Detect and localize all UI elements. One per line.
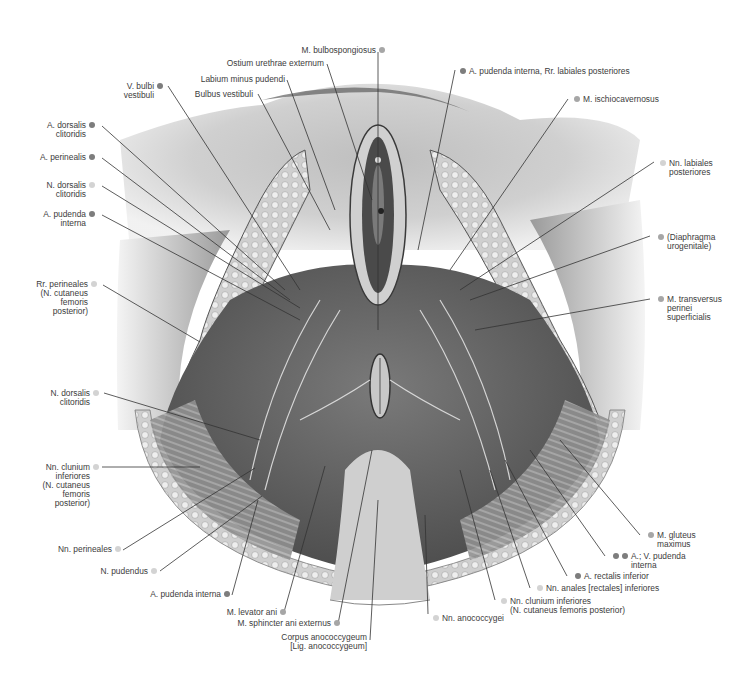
- label-a-pudenda-interna-bottom: A. pudenda interna: [150, 590, 233, 599]
- label-text: A. rectalis inferior: [584, 571, 649, 581]
- label-text: Bulbus vestibuli: [195, 89, 253, 99]
- nerve-dot-icon: [501, 598, 507, 604]
- label-nn-perineales: Nn. perineales: [58, 545, 124, 554]
- label-text: M. levator ani: [227, 607, 277, 617]
- label-text: A. pudenda interna: [150, 589, 221, 599]
- nerve-dot-icon: [115, 546, 121, 552]
- label-text: posterior): [43, 499, 102, 508]
- muscle-dot-icon: [658, 234, 664, 240]
- label-ostium-urethrae: Ostium urethrae externum: [227, 59, 324, 68]
- label-m-transversus-perinei: M. transversus perinei superficialis: [655, 295, 722, 322]
- muscle-dot-icon: [280, 609, 286, 615]
- label-a-perinealis: A. perinealis: [40, 153, 98, 162]
- label-text: Nn. anales [rectales] inferiores: [546, 583, 659, 593]
- label-text: A. perinealis: [40, 152, 86, 162]
- nerve-dot-icon: [660, 160, 666, 166]
- label-text: maximus: [645, 540, 696, 549]
- label-text: posterior): [36, 307, 100, 316]
- nerve-dot-icon: [151, 568, 157, 574]
- label-m-gluteus-maximus: M. gluteus maximus: [645, 531, 696, 549]
- label-text: superficialis: [655, 313, 722, 322]
- nerve-dot-icon: [433, 615, 439, 621]
- artery-dot-icon: [575, 573, 581, 579]
- label-text: Labium minus pudendi: [201, 74, 285, 84]
- label-n-dorsalis-clitoridis-mid: N. dorsalis clitoridis: [50, 389, 102, 407]
- label-text: A. pudenda interna, Rr. labiales posteri…: [469, 66, 630, 76]
- label-a-dorsalis-clitoridis: A. dorsalis clitoridis: [47, 121, 98, 139]
- nerve-dot-icon: [93, 464, 99, 470]
- label-text: interna: [610, 561, 686, 570]
- label-text: interna: [43, 219, 98, 228]
- label-text: Nn. perineales: [58, 544, 112, 554]
- label-text: clitoridis: [47, 130, 98, 139]
- artery-dot-icon: [224, 591, 230, 597]
- label-bulbus-vestibuli: Bulbus vestibuli: [195, 90, 253, 99]
- label-text: vestibuli: [124, 91, 166, 100]
- label-n-pudendus: N. pudendus: [101, 567, 161, 576]
- label-text: clitoridis: [50, 398, 102, 407]
- label-text: urogenitale): [655, 242, 715, 251]
- nerve-dot-icon: [89, 182, 95, 188]
- label-n-dorsalis-clitoridis: N. dorsalis clitoridis: [46, 181, 98, 199]
- anatomy-diagram: M. bulbospongiosus Ostium urethrae exter…: [0, 0, 756, 686]
- label-text: N. pudendus: [101, 566, 149, 576]
- label-text: clitoridis: [46, 190, 98, 199]
- label-text: (N. cutaneus femoris posterior): [498, 606, 625, 615]
- vein-dot-icon: [622, 553, 628, 559]
- nerve-dot-icon: [93, 390, 99, 396]
- nerve-dot-icon: [91, 281, 97, 287]
- label-labium-minus: Labium minus pudendi: [201, 75, 285, 84]
- artery-dot-icon: [460, 68, 466, 74]
- label-nn-anales-inferiores: Nn. anales [rectales] inferiores: [534, 584, 659, 593]
- label-nn-clunium-inferiores-left: Nn. clunium inferiores (N. cutaneus femo…: [43, 463, 102, 508]
- label-text: M. ischiocavernosus: [583, 94, 659, 104]
- muscle-dot-icon: [648, 532, 654, 538]
- label-nn-clunium-inferiores-right: Nn. clunium inferiores (N. cutaneus femo…: [498, 597, 625, 615]
- muscle-dot-icon: [658, 296, 664, 302]
- label-corpus-anococcygeum: Corpus anococcygeum [Lig. anococcygeum]: [281, 633, 367, 651]
- label-text: M. sphincter ani externus: [237, 618, 331, 628]
- label-a-pudenda-rr-labiales: A. pudenda interna, Rr. labiales posteri…: [457, 67, 630, 76]
- label-text: Nn. anococcygei: [442, 613, 504, 623]
- muscle-dot-icon: [334, 620, 340, 626]
- muscle-dot-icon: [574, 96, 580, 102]
- label-text: Ostium urethrae externum: [227, 58, 324, 68]
- label-nn-anococcygei: Nn. anococcygei: [430, 614, 504, 623]
- label-a-pudenda-interna-left: A. pudenda interna: [43, 210, 98, 228]
- muscle-dot-icon: [379, 47, 385, 53]
- artery-dot-icon: [613, 553, 619, 559]
- label-a-rectalis-inferior: A. rectalis inferior: [572, 572, 649, 581]
- label-text: M. bulbospongiosus: [302, 45, 377, 55]
- nerve-dot-icon: [537, 585, 543, 591]
- label-text: [Lig. anococcygeum]: [281, 642, 367, 651]
- label-diaphragma-urogenitale: (Diaphragma urogenitale): [655, 233, 715, 251]
- label-rr-perineales: Rr. perineales (N. cutaneus femoris post…: [36, 280, 100, 316]
- artery-dot-icon: [157, 83, 163, 89]
- label-text: posteriores: [657, 168, 713, 177]
- label-nn-labiales-posteriores: Nn. labiales posteriores: [657, 159, 713, 177]
- artery-dot-icon: [89, 211, 95, 217]
- label-v-bulbi-vestibuli: V. bulbi vestibuli: [124, 82, 166, 100]
- label-m-ischiocavernosus: M. ischiocavernosus: [571, 95, 659, 104]
- label-m-levator-ani: M. levator ani: [227, 608, 289, 617]
- artery-dot-icon: [89, 154, 95, 160]
- artery-dot-icon: [89, 122, 95, 128]
- label-m-sphincter-ani-externus: M. sphincter ani externus: [237, 619, 343, 628]
- label-av-pudenda-interna: A.; V. pudenda interna: [610, 552, 686, 570]
